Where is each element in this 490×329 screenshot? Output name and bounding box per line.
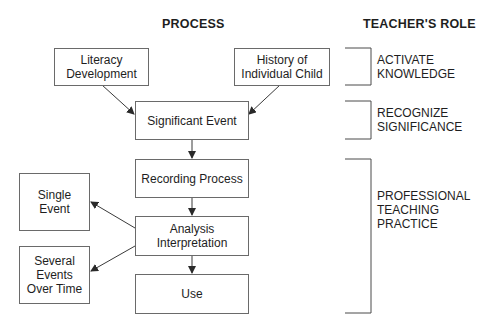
- arrow-history-to-significant: [249, 85, 280, 114]
- role-activate-knowledge: ACTIVATE KNOWLEDGE: [377, 53, 455, 81]
- several-events-box: Several Events Over Time: [19, 246, 90, 304]
- bracket-recognize: [345, 101, 371, 139]
- arrow-analysis-to-single: [91, 202, 135, 228]
- analysis-interpretation-box: Analysis Interpretation: [135, 216, 249, 256]
- use-box: Use: [135, 274, 249, 314]
- role-professional-teaching-practice: PROFESSIONAL TEACHING PRACTICE: [377, 189, 470, 231]
- literacy-development-box: Literacy Development: [54, 48, 149, 86]
- process-header: PROCESS: [162, 17, 225, 31]
- history-individual-child-box: History of Individual Child: [234, 48, 330, 86]
- significant-event-box: Significant Event: [135, 101, 249, 140]
- bracket-professional: [345, 159, 371, 313]
- single-event-box: Single Event: [19, 173, 90, 231]
- role-recognize-significance: RECOGNIZE SIGNIFICANCE: [377, 106, 462, 134]
- recording-process-box: Recording Process: [135, 159, 249, 198]
- arrow-literacy-to-significant: [102, 85, 134, 114]
- arrow-analysis-to-several: [91, 246, 135, 271]
- bracket-activate: [345, 48, 371, 85]
- teachers-role-header: TEACHER'S ROLE: [363, 17, 476, 31]
